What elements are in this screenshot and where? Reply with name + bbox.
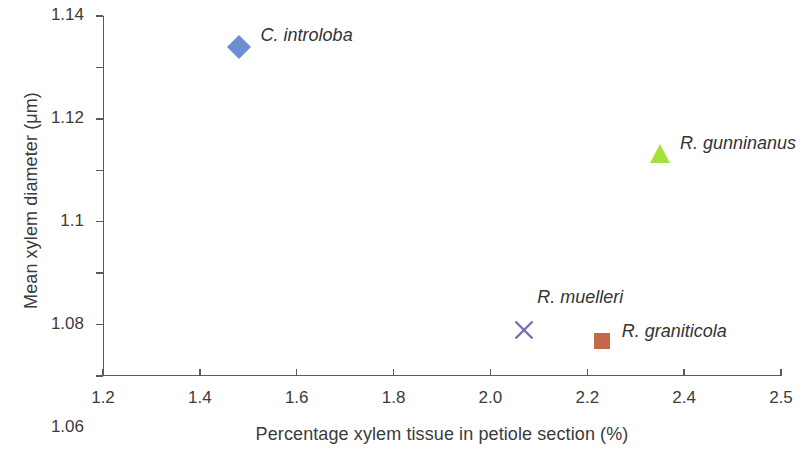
x-tick-label: 1.4 (188, 388, 212, 408)
y-tick-mark: 1.04 (96, 272, 103, 273)
x-tick-mark (296, 369, 297, 376)
x-tick-mark (780, 369, 781, 376)
y-tick-mark: 1.14 (96, 15, 103, 16)
y-tick-mark: 1.12 (96, 67, 103, 68)
x-tick-label: 1.8 (382, 388, 406, 408)
x-tick-label: 2.2 (575, 388, 599, 408)
y-tick-label: 1.12 (51, 108, 84, 128)
y-tick-label: 1.14 (51, 5, 84, 25)
triangle-marker-icon (650, 144, 670, 163)
data-point-label: C. introloba (261, 25, 353, 46)
x-axis-line (103, 375, 781, 376)
x-tick-label: 1.6 (285, 388, 309, 408)
x-tick-label: 2.0 (479, 388, 503, 408)
data-point-label: R. muelleri (537, 287, 623, 308)
x-tick-mark (199, 369, 200, 376)
x-tick-label: 1.2 (91, 388, 115, 408)
x-tick-mark (683, 369, 684, 376)
y-axis-title: Mean xylem diameter (μm) (21, 31, 42, 371)
y-tick-mark: 1.1 (96, 118, 103, 119)
y-axis-line (103, 16, 104, 376)
x-tick-mark (102, 369, 103, 376)
square-marker-icon (594, 333, 610, 349)
y-tick-mark: 1.02 (96, 324, 103, 325)
y-tick-mark: 1.06 (96, 221, 103, 222)
x-tick-mark (490, 369, 491, 376)
diamond-marker-icon (227, 35, 251, 59)
data-point-label: R. gunninanus (680, 133, 796, 154)
x-tick-mark (587, 369, 588, 376)
cross-marker-icon (513, 319, 535, 341)
x-axis-title: Percentage xylem tissue in petiole secti… (103, 424, 781, 445)
x-tick-label: 2.5 (769, 388, 793, 408)
plot-area: 1.01.021.041.061.081.11.121.14 1.21.41.6… (103, 16, 781, 376)
y-tick-label: 1.08 (51, 314, 84, 334)
y-tick-label: 1.06 (51, 417, 84, 437)
x-tick-label: 2.4 (672, 388, 696, 408)
y-tick-label: 1.1 (60, 211, 84, 231)
data-point-label: R. graniticola (622, 321, 727, 342)
scatter-chart-figure: Mean xylem diameter (μm) Percentage xyle… (0, 0, 802, 457)
x-tick-mark (393, 369, 394, 376)
y-tick-mark: 1.08 (96, 170, 103, 171)
